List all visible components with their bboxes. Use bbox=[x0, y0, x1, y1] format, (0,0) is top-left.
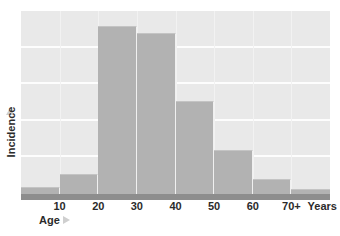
x-axis-tick-label: 70+ bbox=[282, 200, 301, 212]
bar bbox=[137, 33, 176, 194]
x-axis-title: Age bbox=[39, 214, 60, 226]
right-triangle-icon bbox=[63, 216, 70, 224]
x-axis-title-group: Age bbox=[39, 214, 70, 226]
bar-series bbox=[21, 11, 330, 194]
x-axis-tick-label: 60 bbox=[247, 200, 259, 212]
bar bbox=[98, 26, 137, 194]
y-axis-title-group: Incidence bbox=[2, 108, 18, 192]
x-axis-tick-label: 20 bbox=[92, 200, 104, 212]
bar bbox=[291, 189, 330, 194]
bar bbox=[21, 187, 60, 194]
incidence-by-age-histogram-figure: 10203040506070+Years Age Incidence bbox=[0, 0, 340, 236]
x-axis-tick-label: 50 bbox=[208, 200, 220, 212]
bar bbox=[214, 150, 253, 194]
bar bbox=[60, 174, 99, 194]
bar bbox=[253, 179, 292, 194]
bar bbox=[176, 101, 215, 194]
y-axis-title: Incidence bbox=[5, 101, 17, 163]
x-axis-tick-label: 40 bbox=[169, 200, 181, 212]
plot-area bbox=[21, 11, 330, 194]
x-axis-tick-label: 30 bbox=[131, 200, 143, 212]
x-axis-tick-labels: 10203040506070+Years bbox=[21, 200, 330, 214]
x-axis-tick-label: 10 bbox=[54, 200, 66, 212]
x-axis-tick-label: Years bbox=[308, 200, 337, 212]
